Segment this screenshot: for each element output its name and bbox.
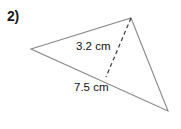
triangle-diagram (0, 0, 181, 129)
base-measurement-label: 7.5 cm (74, 82, 109, 94)
height-measurement-label: 3.2 cm (76, 41, 111, 53)
triangle-outline (31, 18, 168, 111)
geometry-figure: 2) 3.2 cm 7.5 cm (0, 0, 181, 129)
